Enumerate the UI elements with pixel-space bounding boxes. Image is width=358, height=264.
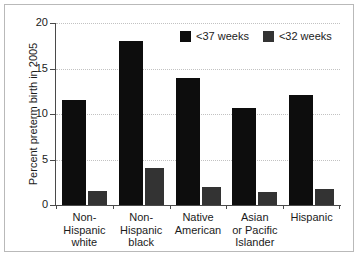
x-category-label-hispanic: Hispanic — [283, 211, 340, 224]
cat-line: Islander — [224, 236, 285, 249]
cat-line: Non- — [113, 211, 170, 224]
y-tick-0 — [50, 205, 55, 206]
legend-item-32-weeks: <32 weeks — [263, 30, 332, 42]
cat-line: Hispanic — [113, 224, 170, 237]
cat-line: Hispanic — [283, 211, 340, 224]
y-tick-5 — [50, 160, 55, 161]
x-tick-5 — [339, 205, 340, 209]
bar-32weeks-non-hispanic-black — [145, 168, 164, 205]
bar-37weeks-non-hispanic-black — [119, 41, 143, 205]
x-tick-3 — [226, 205, 227, 209]
cat-line: American — [170, 224, 227, 237]
legend-item-37-weeks: <37 weeks — [180, 30, 249, 42]
legend-swatch-icon-32-weeks — [263, 31, 274, 42]
x-category-label-non-hispanic-white: Non- Hispanic white — [56, 211, 113, 249]
chart-legend: <37 weeks <32 weeks — [180, 30, 332, 42]
gridline-15 — [56, 69, 340, 70]
legend-label-37-weeks: <37 weeks — [196, 30, 249, 42]
y-axis-title: Percent preterm birth in 2005 — [27, 19, 39, 209]
bar-37weeks-non-hispanic-white — [62, 100, 86, 205]
bar-37weeks-asian-or-pacific-islander — [232, 108, 256, 205]
y-axis-line — [55, 23, 56, 206]
x-category-label-asian-or-pacific-islander: Asian or Pacific Islander — [224, 211, 285, 249]
cat-line: Hispanic — [56, 224, 113, 237]
bar-32weeks-asian-or-pacific-islander — [258, 192, 277, 205]
bar-32weeks-hispanic — [315, 189, 334, 205]
bar-32weeks-non-hispanic-white — [88, 191, 107, 205]
y-tick-15 — [50, 69, 55, 70]
cat-line: black — [113, 236, 170, 249]
x-category-label-native-american: Native American — [170, 211, 227, 236]
cat-line: Native — [170, 211, 227, 224]
x-tick-1 — [113, 205, 114, 209]
cat-line: Non- — [56, 211, 113, 224]
cat-line: or Pacific — [224, 224, 285, 237]
cat-line: Asian — [224, 211, 285, 224]
y-tick-10 — [50, 114, 55, 115]
x-tick-4 — [283, 205, 284, 209]
x-tick-2 — [170, 205, 171, 209]
y-tick-20 — [50, 23, 55, 24]
x-category-label-non-hispanic-black: Non- Hispanic black — [113, 211, 170, 249]
legend-swatch-icon-37-weeks — [180, 31, 191, 42]
chart-figure: 20 15 10 5 0 Percent preterm birth in 20… — [0, 0, 358, 264]
bar-37weeks-native-american — [176, 78, 200, 205]
cat-line: white — [56, 236, 113, 249]
gridline-20 — [56, 23, 340, 24]
x-axis-line — [55, 205, 341, 206]
bar-37weeks-hispanic — [289, 95, 313, 205]
x-tick-0 — [56, 205, 57, 209]
bar-32weeks-native-american — [202, 187, 221, 205]
legend-label-32-weeks: <32 weeks — [279, 30, 332, 42]
